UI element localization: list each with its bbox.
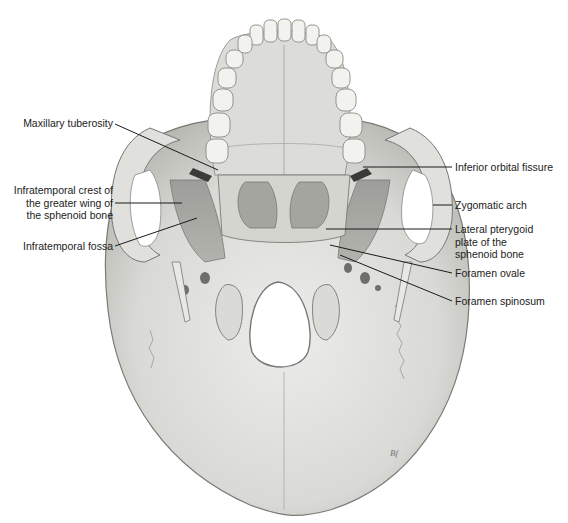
label-text: Inferior orbital fissure xyxy=(455,161,553,173)
choana-right xyxy=(290,182,329,228)
label-text: sphenoid bone xyxy=(455,248,533,261)
label-inferior-orbital-fissure: Inferior orbital fissure xyxy=(455,161,553,174)
choana-left xyxy=(238,182,277,228)
label-text: Maxillary tuberosity xyxy=(23,117,113,129)
orbit-opening-left xyxy=(130,170,161,246)
label-text: the greater wing of xyxy=(14,197,113,210)
label-text: Foramen spinosum xyxy=(455,295,545,307)
label-text: Foramen ovale xyxy=(455,267,525,279)
label-text: the sphenoid bone xyxy=(14,209,113,222)
label-text: Lateral pterygoid xyxy=(455,223,533,236)
label-text: Zygomatic arch xyxy=(455,199,527,211)
label-infratemporal-crest: Infratemporal crest of the greater wing … xyxy=(14,184,113,222)
label-zygomatic-arch: Zygomatic arch xyxy=(455,199,527,212)
label-foramen-ovale: Foramen ovale xyxy=(455,267,525,280)
label-text: Infratemporal crest of xyxy=(14,184,113,197)
pterygoid-region xyxy=(218,175,350,243)
skull-base-diagram: Bf Maxillary tuberosity Infratemporal cr… xyxy=(0,0,568,523)
label-maxillary-tuberosity: Maxillary tuberosity xyxy=(23,117,113,130)
label-text: Infratemporal fossa xyxy=(23,240,113,252)
label-lateral-pterygoid-plate: Lateral pterygoid plate of the sphenoid … xyxy=(455,223,533,261)
label-text: plate of the xyxy=(455,236,533,249)
skull-illustration: Bf xyxy=(0,0,568,523)
label-foramen-spinosum: Foramen spinosum xyxy=(455,295,545,308)
label-infratemporal-fossa: Infratemporal fossa xyxy=(23,240,113,253)
